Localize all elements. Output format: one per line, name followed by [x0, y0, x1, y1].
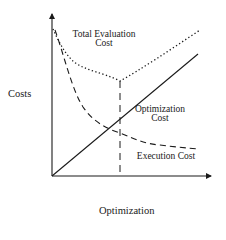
execution-cost-label: Execution Cost: [134, 152, 198, 161]
total-evaluation-cost-label: Total Evaluation Cost: [66, 30, 142, 48]
total-label-line2: Cost: [66, 39, 142, 48]
optimization-cost-label: Optimization Cost: [130, 105, 190, 123]
y-axis-label: Costs: [8, 89, 31, 98]
x-axis-label: Optimization: [99, 206, 154, 215]
opt-label-line2: Cost: [130, 114, 190, 123]
